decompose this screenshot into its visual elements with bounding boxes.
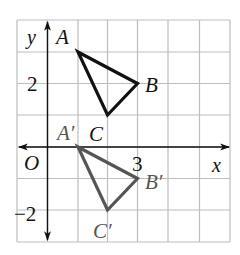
grid [17, 20, 230, 242]
vertex-label-b: B [145, 73, 158, 97]
vertex-label-c-prime: C′ [93, 219, 112, 243]
coordinate-figure: y x O 2 −2 3 A B C A′ B′ C′ [0, 0, 240, 255]
vertex-label-a: A [54, 25, 69, 49]
tick-label-y-2: 2 [27, 72, 38, 96]
vertex-label-b-prime: B′ [145, 170, 163, 194]
vertex-label-c: C [89, 122, 104, 146]
tick-label-x-3: 3 [132, 152, 143, 176]
vertex-label-a-prime: A′ [55, 121, 75, 145]
origin-label: O [24, 151, 39, 175]
y-axis-label: y [25, 26, 36, 49]
tick-label-y-neg2: −2 [14, 202, 36, 226]
x-axis-label: x [211, 154, 221, 176]
